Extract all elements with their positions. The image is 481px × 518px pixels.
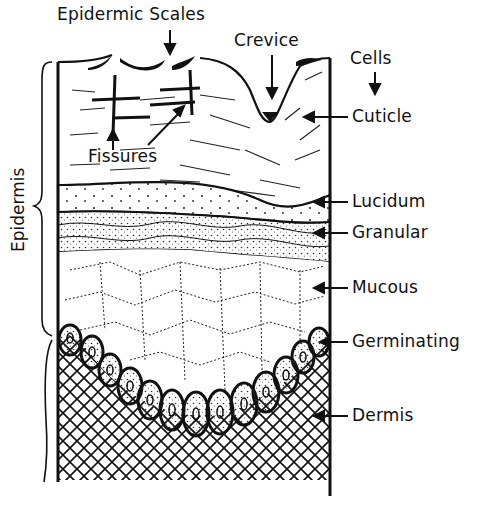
label-fissures: Fissures — [88, 146, 157, 166]
label-lucidum: Lucidum — [352, 191, 426, 211]
label-cells: Cells — [350, 48, 392, 68]
label-epidermic-scales: Epidermic Scales — [57, 4, 205, 24]
label-epidermis: Epidermis — [8, 168, 28, 252]
label-mucous: Mucous — [352, 277, 418, 297]
epidermis-brace — [34, 62, 52, 336]
label-dermis: Dermis — [352, 405, 414, 425]
label-cuticle: Cuticle — [352, 106, 412, 126]
skin-diagram — [0, 0, 481, 518]
label-germinating: Germinating — [352, 331, 460, 351]
label-crevice: Crevice — [234, 30, 299, 50]
label-granular: Granular — [352, 222, 428, 242]
